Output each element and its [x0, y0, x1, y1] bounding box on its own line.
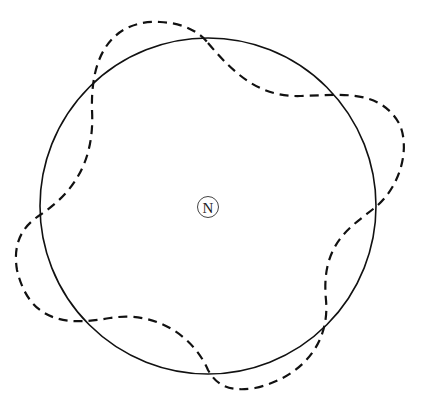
nucleus-label: N: [203, 200, 214, 216]
nucleus-marker: N: [198, 197, 219, 218]
orbit-diagram: N: [0, 0, 421, 404]
